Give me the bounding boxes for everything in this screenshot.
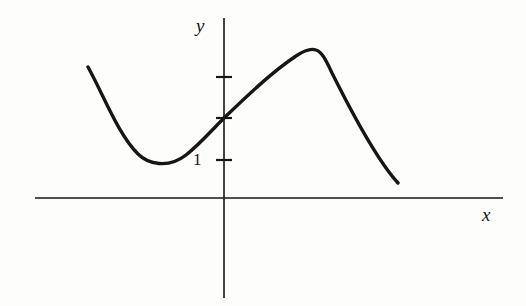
function-curve	[88, 49, 398, 183]
plot-canvas	[0, 0, 526, 306]
y-tick-label-1: 1	[193, 151, 202, 168]
y-axis-label: y	[196, 16, 204, 35]
graph-figure: y x 1	[0, 0, 526, 306]
x-axis-label: x	[482, 205, 490, 224]
